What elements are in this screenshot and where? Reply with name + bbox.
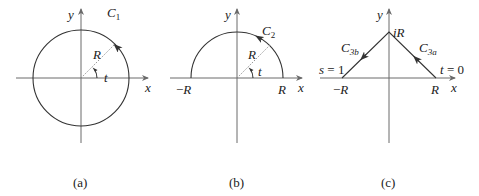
segment-a-label: C3a [419, 40, 437, 57]
angle-arrow-icon [249, 68, 254, 72]
curve-label: C2 [262, 23, 275, 40]
segment-b-label: C3b [341, 40, 359, 57]
radius-label: R [247, 47, 256, 62]
apex-label: iR [393, 25, 405, 40]
direction-arrow-icon [363, 55, 366, 58]
caption-b: (b) [229, 175, 244, 190]
panel-b: C2 R t −R R x y (b) [170, 7, 304, 190]
y-axis-label: y [375, 7, 383, 22]
curve-label: C1 [107, 5, 120, 22]
angle-label: t [104, 70, 108, 85]
y-axis-label: y [223, 7, 231, 22]
contour-diagrams: C1 R t x y (a) C2 R t −R R x y (b) iR C3… [0, 0, 479, 196]
angle-label: t [258, 64, 262, 79]
left-tick-label: −R [333, 82, 348, 97]
start-param-label: t = 0 [440, 62, 464, 77]
radius-label: R [92, 47, 101, 62]
caption-a: (a) [73, 175, 87, 190]
panel-a: C1 R t x y (a) [16, 5, 151, 190]
caption-c: (c) [381, 175, 395, 190]
angle-arrow-icon [93, 68, 98, 72]
left-tick-label: −R [176, 82, 191, 97]
x-axis-label: x [297, 80, 304, 95]
panel-c: iR C3a C3b t = 0 s = 1 −R R x y (c) [319, 7, 464, 190]
right-tick-label: R [430, 82, 439, 97]
direction-arrow-icon [416, 59, 419, 62]
x-axis-label: x [450, 80, 457, 95]
x-axis-label: x [144, 80, 151, 95]
y-axis-label: y [66, 7, 74, 22]
right-tick-label: R [277, 82, 286, 97]
end-param-label: s = 1 [319, 62, 344, 77]
